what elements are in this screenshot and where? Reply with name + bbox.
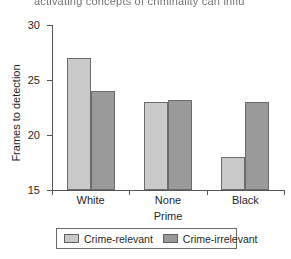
x-tick	[284, 190, 285, 195]
y-tick-label: 15	[28, 184, 40, 196]
y-tick-label: 25	[28, 74, 40, 86]
x-category-label: None	[155, 194, 181, 206]
y-tick-label: 20	[28, 129, 40, 141]
legend-label: Crime-irrelevant	[183, 233, 258, 245]
x-tick	[52, 190, 53, 195]
legend-swatch-icon	[64, 234, 79, 243]
chart-legend: Crime-relevant Crime-irrelevant	[56, 228, 237, 249]
bar-crime-relevant-white	[67, 58, 91, 190]
bar-crime-relevant-none	[144, 102, 168, 190]
x-category-label: Black	[232, 194, 259, 206]
bar-crime-irrelevant-none	[168, 100, 192, 190]
figure-root: activating concepts of criminality can i…	[0, 0, 291, 259]
y-tick-label: 30	[28, 19, 40, 31]
truncated-caption-text: activating concepts of criminality can i…	[34, 0, 284, 7]
plot-area: 15202530 Frames to detection WhiteNoneBl…	[52, 25, 284, 190]
x-tick	[207, 190, 208, 195]
legend-label: Crime-relevant	[84, 233, 153, 245]
x-tick	[129, 190, 130, 195]
legend-item-crime-relevant: Crime-relevant	[64, 233, 153, 245]
y-axis-label: Frames to detection	[10, 64, 22, 161]
legend-item-crime-irrelevant: Crime-irrelevant	[163, 233, 258, 245]
legend-swatch-icon	[163, 234, 178, 243]
bar-chart: 15202530 Frames to detection WhiteNoneBl…	[0, 14, 291, 259]
bar-series-container	[52, 25, 284, 190]
bar-crime-irrelevant-white	[91, 91, 115, 190]
x-category-label: White	[77, 194, 105, 206]
bar-crime-irrelevant-black	[245, 102, 269, 190]
bar-crime-relevant-black	[221, 157, 245, 190]
page-caption-strip: activating concepts of criminality can i…	[0, 0, 291, 12]
x-axis-line	[52, 190, 284, 191]
x-axis-label: Prime	[154, 210, 183, 222]
